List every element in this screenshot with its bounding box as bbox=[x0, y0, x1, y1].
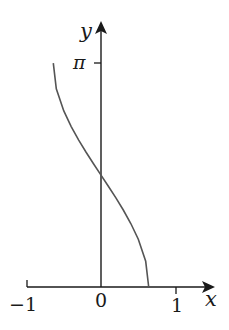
y-tick-label-pi: π bbox=[73, 53, 86, 72]
x-tick-label-1: 1 bbox=[171, 296, 183, 315]
graph bbox=[0, 0, 229, 330]
x-tick-label-0: 0 bbox=[95, 291, 107, 310]
x-tick-label-neg1: −1 bbox=[9, 295, 37, 314]
y-axis-label: y bbox=[80, 21, 92, 42]
x-axis-label: x bbox=[205, 289, 217, 310]
